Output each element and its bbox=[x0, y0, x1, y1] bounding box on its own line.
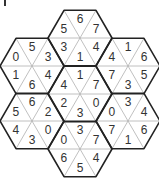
triangle-value: 4 bbox=[93, 40, 100, 54]
triangle-value: 7 bbox=[93, 22, 100, 36]
triangle-value: 7 bbox=[93, 133, 100, 147]
triangle-value: 4 bbox=[109, 50, 116, 64]
triangle-value: 0 bbox=[109, 105, 116, 119]
triangle-value: 0 bbox=[61, 133, 68, 147]
triangle-value: 7 bbox=[109, 68, 116, 82]
triangle-value: 4 bbox=[45, 68, 52, 82]
triangle-value: 6 bbox=[61, 151, 68, 165]
triangle-value: 3 bbox=[125, 78, 132, 92]
triangle-value: 3 bbox=[77, 123, 84, 137]
triangle-value: 1 bbox=[13, 68, 20, 82]
triangle-value: 6 bbox=[77, 12, 84, 26]
triangle-value: 2 bbox=[61, 96, 68, 110]
triangle-value: 5 bbox=[13, 105, 20, 119]
hex-puzzle-board: 5674130534614165374170325620340346170374… bbox=[0, 0, 159, 181]
triangle-value: 6 bbox=[141, 50, 148, 64]
triangle-value: 1 bbox=[125, 40, 132, 54]
triangle-value: 6 bbox=[29, 78, 36, 92]
triangle-value: 3 bbox=[125, 95, 132, 109]
triangle-value: 3 bbox=[61, 40, 68, 54]
triangle-value: 6 bbox=[141, 123, 148, 137]
triangle-value: 5 bbox=[77, 161, 84, 175]
triangle-value: 0 bbox=[45, 123, 52, 137]
triangle-value: 5 bbox=[29, 40, 36, 54]
triangle-value: 3 bbox=[77, 106, 84, 120]
triangle-value: 1 bbox=[77, 68, 84, 82]
triangle-value: 5 bbox=[61, 22, 68, 36]
triangle-value: 1 bbox=[77, 50, 84, 64]
triangle-value: 0 bbox=[13, 50, 20, 64]
triangle-value: 6 bbox=[29, 95, 36, 109]
triangle-value: 2 bbox=[45, 105, 52, 119]
triangle-value: 0 bbox=[93, 96, 100, 110]
triangle-value: 7 bbox=[93, 78, 100, 92]
triangle-value: 3 bbox=[29, 133, 36, 147]
triangle-value: 4 bbox=[13, 123, 20, 137]
triangle-value: 7 bbox=[109, 123, 116, 137]
triangle-value: 5 bbox=[141, 68, 148, 82]
triangle-value: 4 bbox=[93, 151, 100, 165]
triangle-value: 4 bbox=[61, 78, 68, 92]
triangle-value: 1 bbox=[125, 133, 132, 147]
triangle-value: 4 bbox=[141, 105, 148, 119]
triangle-value: 3 bbox=[45, 50, 52, 64]
